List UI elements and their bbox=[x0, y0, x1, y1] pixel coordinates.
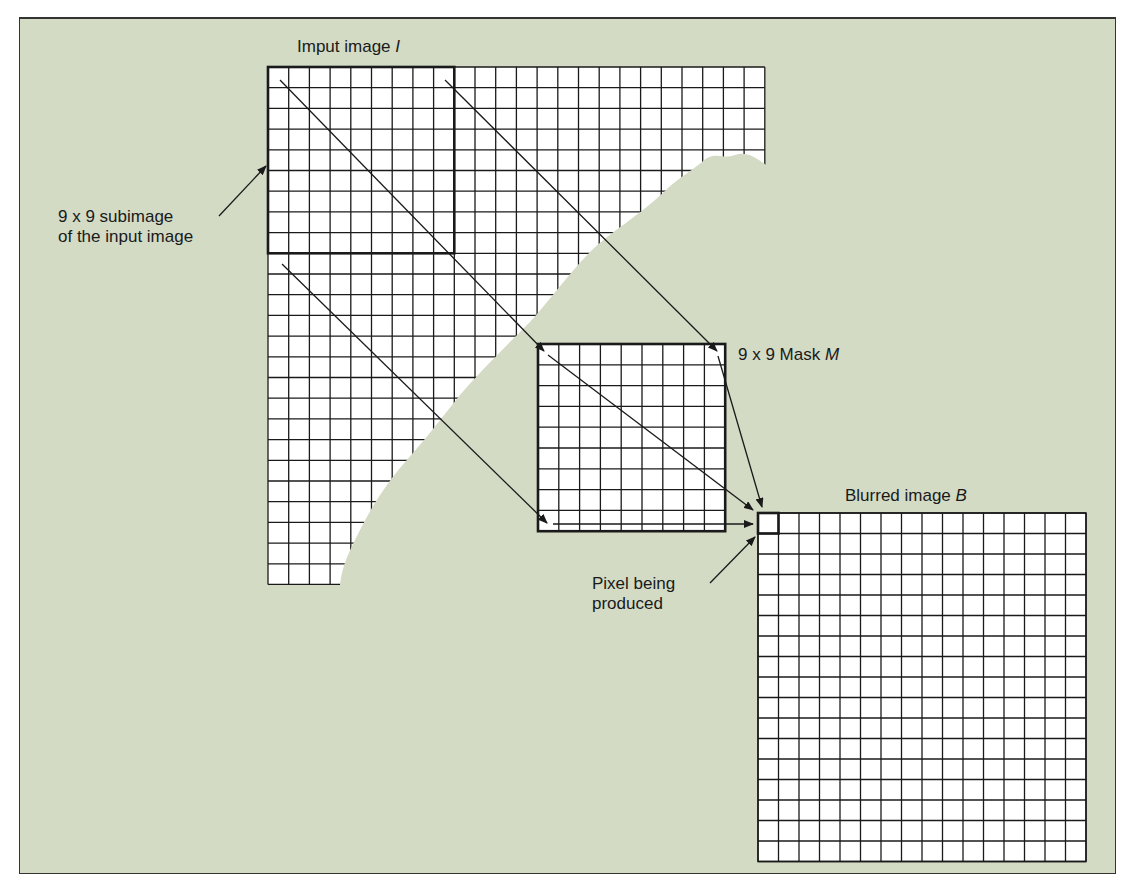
mask-label: 9 x 9 Mask M bbox=[738, 345, 839, 365]
input-image-label: Imput image I bbox=[297, 37, 400, 57]
input-image-symbol: I bbox=[395, 37, 400, 56]
pixel-label: Pixel being produced bbox=[592, 574, 675, 614]
subimage-label: 9 x 9 subimage of the input image bbox=[58, 207, 193, 247]
convolution-diagram bbox=[0, 0, 1138, 896]
blurred-image-grid bbox=[758, 513, 1086, 862]
mask-symbol: M bbox=[825, 345, 839, 364]
subimage-label-line2: of the input image bbox=[58, 227, 193, 247]
blurred-image-symbol: B bbox=[956, 486, 967, 505]
pixel-label-line2: produced bbox=[592, 594, 675, 614]
subimage-label-line1: 9 x 9 subimage bbox=[58, 207, 193, 227]
input-image-label-text: Imput image bbox=[297, 37, 391, 56]
pixel-label-line1: Pixel being bbox=[592, 574, 675, 594]
mask-label-text: 9 x 9 Mask bbox=[738, 345, 820, 364]
arrow-pixel-label bbox=[710, 537, 755, 583]
mask-grid bbox=[538, 344, 725, 531]
arrow-subimage-label bbox=[219, 166, 266, 216]
blurred-image-label: Blurred image B bbox=[845, 486, 967, 506]
blurred-image-label-text: Blurred image bbox=[845, 486, 951, 505]
